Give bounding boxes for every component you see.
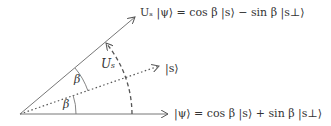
angle-lower-label: β <box>63 99 69 110</box>
us-psi-vector <box>20 17 135 114</box>
rotation-operator-label: Uₛ <box>101 58 115 70</box>
top-vector-label: Uₛ |ψ⟩ = cos β |s⟩ − sin β |s⊥⟩ <box>140 7 305 18</box>
bottom-vector-label: |ψ⟩ = cos β |s⟩ + sin β |s⊥⟩ <box>174 108 322 119</box>
angle-arc-lower <box>73 95 76 114</box>
s-vector <box>20 66 159 114</box>
rotation-arc <box>106 43 132 114</box>
angle-upper-label: β <box>74 74 80 85</box>
s-vector-label: |s⟩ <box>165 63 179 74</box>
